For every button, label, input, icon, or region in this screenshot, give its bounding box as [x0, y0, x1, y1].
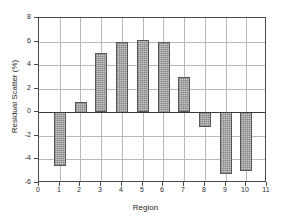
bar	[158, 42, 170, 113]
plot-area	[38, 17, 266, 182]
gridline-horizontal	[39, 42, 265, 43]
x-tick-label: 11	[255, 186, 277, 194]
gridline-vertical	[80, 18, 81, 181]
x-tick-label: 8	[193, 186, 215, 194]
bar	[240, 112, 252, 171]
bar	[178, 77, 190, 112]
bar	[54, 112, 66, 166]
bar	[116, 42, 128, 113]
y-tick-label: 8	[0, 13, 31, 21]
x-tick-label: 6	[151, 186, 173, 194]
gridline-vertical	[205, 18, 206, 181]
bar-chart-figure: 86420-2-4-6 01234567891011 Residual Scat…	[0, 0, 291, 224]
zero-baseline	[39, 112, 265, 113]
y-tick-mark	[34, 64, 38, 65]
y-tick-label: -6	[0, 178, 31, 186]
y-tick-mark	[34, 135, 38, 136]
y-tick-mark	[34, 88, 38, 89]
y-tick-mark	[34, 17, 38, 18]
x-tick-label: 9	[214, 186, 236, 194]
x-tick-label: 5	[131, 186, 153, 194]
x-tick-label: 3	[89, 186, 111, 194]
y-tick-mark	[34, 41, 38, 42]
bar	[199, 112, 211, 127]
bar	[95, 53, 107, 112]
x-axis-title: Region	[0, 203, 291, 212]
x-tick-label: 7	[172, 186, 194, 194]
gridline-horizontal	[39, 89, 265, 90]
x-tick-label: 1	[48, 186, 70, 194]
y-axis-title: Residual Scatter (%)	[10, 27, 19, 167]
gridline-horizontal	[39, 65, 265, 66]
x-tick-label: 2	[68, 186, 90, 194]
x-tick-label: 4	[110, 186, 132, 194]
y-tick-mark	[34, 111, 38, 112]
bar	[220, 112, 232, 174]
bar	[137, 40, 149, 112]
x-tick-label: 0	[27, 186, 49, 194]
y-tick-mark	[34, 158, 38, 159]
x-tick-label: 10	[234, 186, 256, 194]
